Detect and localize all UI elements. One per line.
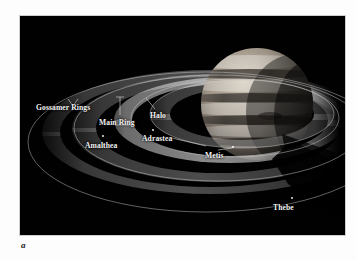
label-amalthea: Amalthea	[85, 142, 117, 150]
panel-letter: a	[21, 241, 26, 250]
label-gossamer-rings: Gossamer Rings	[36, 104, 90, 112]
figure-root: Gossamer Rings Main Ring Halo Amalthea A…	[0, 0, 356, 261]
moon-dot-amalthea	[102, 135, 104, 137]
label-halo: Halo	[150, 112, 166, 120]
jupiter-ring-system-image: Gossamer Rings Main Ring Halo Amalthea A…	[20, 16, 345, 235]
label-adrastea: Adrastea	[142, 135, 172, 143]
label-thebe: Thebe	[273, 204, 294, 212]
moon-dot-thebe	[291, 197, 293, 199]
label-main-ring: Main Ring	[99, 119, 135, 127]
moon-dot-adrastea	[152, 129, 154, 131]
moon-dot-metis	[232, 146, 234, 148]
scene-illustration	[20, 16, 345, 235]
label-metis: Metis	[205, 152, 224, 160]
